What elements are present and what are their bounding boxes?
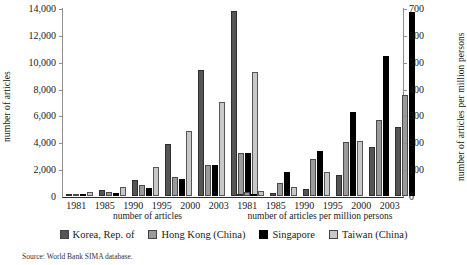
tick-mark (59, 143, 63, 144)
tick-mark (403, 36, 407, 37)
bar (172, 177, 178, 196)
tick-mark (403, 143, 407, 144)
legend-swatch (329, 230, 338, 239)
bar (277, 183, 283, 196)
tick-label: 400 (409, 85, 424, 95)
tick-label: 500 (409, 58, 424, 68)
legend-swatch (60, 230, 69, 239)
tick-label: 600 (409, 31, 424, 41)
bar-group-1995 (333, 8, 366, 196)
tick-mark (403, 9, 407, 10)
tick-mark (59, 36, 63, 37)
y-axis-ticks-right: 7006005004003002001000 (409, 8, 449, 198)
bar (66, 194, 72, 196)
tick-label: 14,000 (29, 4, 57, 14)
tick-label: 0 (51, 192, 56, 202)
bar (324, 172, 330, 196)
tick-label: 2,000 (34, 165, 57, 175)
tick-label: 0 (409, 192, 414, 202)
bar (310, 159, 316, 196)
bar (219, 102, 225, 196)
legend-item: Korea, Rep. of (60, 229, 135, 240)
tick-label: 4,000 (34, 138, 57, 148)
bar (383, 56, 389, 196)
legend-item: Taiwan (China) (329, 229, 407, 240)
bar (357, 141, 363, 196)
legend: Korea, Rep. ofHong Kong (China)Singapore… (0, 229, 467, 240)
tick-label: 300 (409, 111, 424, 121)
bar (343, 142, 349, 196)
tick-mark (59, 116, 63, 117)
bar (212, 165, 218, 196)
tick-mark (59, 9, 63, 10)
bar (87, 192, 93, 196)
legend-swatch (148, 230, 157, 239)
bar (186, 131, 192, 196)
bar (198, 70, 204, 196)
bar (139, 185, 145, 196)
y-axis-ticks-left: 14,00012,00010,0008,0006,0004,0002,0000 (16, 8, 56, 198)
bar (291, 187, 297, 196)
x-axis-title-right: number of articles per million persons (222, 211, 418, 221)
bar (132, 180, 138, 196)
bar (350, 112, 356, 196)
tick-label: 10,000 (29, 58, 57, 68)
tick-mark (403, 116, 407, 117)
bar (284, 172, 290, 196)
legend-swatch (259, 230, 268, 239)
legend-label: Hong Kong (China) (161, 229, 245, 240)
legend-item: Hong Kong (China) (148, 229, 245, 240)
tick-mark (403, 170, 407, 171)
y-axis-title-left: number of articles (2, 14, 12, 200)
legend-item: Singapore (259, 229, 315, 240)
bar (165, 144, 171, 196)
legend-label: Korea, Rep. of (73, 229, 135, 240)
figure: number of articles 14,00012,00010,0008,0… (0, 0, 467, 265)
tick-label: 200 (409, 138, 424, 148)
bar (376, 120, 382, 196)
bar-group-1981 (234, 8, 267, 196)
bar-group-1985 (96, 8, 129, 196)
bar-group-1990 (129, 8, 162, 196)
bar-group-1985 (267, 8, 300, 196)
bar (336, 175, 342, 196)
bar (106, 192, 112, 196)
source-note: Source: World Bank SIMA database. (22, 252, 133, 261)
bar (153, 167, 159, 196)
bar-group-1990 (300, 8, 333, 196)
bar (120, 187, 126, 196)
bar (99, 190, 105, 196)
bar (113, 193, 119, 196)
bar (73, 194, 79, 196)
bar (80, 194, 86, 196)
bar-group-2000 (195, 8, 228, 196)
x-axis-title-left: number of articles (62, 211, 233, 221)
bar-group-1981 (63, 8, 96, 196)
bar (402, 95, 408, 196)
plot-area (62, 8, 404, 198)
bar (317, 151, 323, 196)
bar (146, 188, 152, 196)
bar (395, 127, 401, 196)
legend-label: Taiwan (China) (342, 229, 407, 240)
legend-label: Singapore (272, 229, 315, 240)
bar (303, 189, 309, 196)
bar (244, 192, 250, 196)
tick-mark (403, 90, 407, 91)
y-axis-title-right: number of articles per million persons (456, 4, 466, 210)
panel-number-of-articles (63, 8, 234, 196)
tick-mark (59, 63, 63, 64)
bar (237, 194, 243, 196)
bar-group-1995 (162, 8, 195, 196)
tick-mark (59, 90, 63, 91)
bar (205, 165, 211, 196)
bar (270, 193, 276, 196)
bar (369, 147, 375, 196)
tick-mark (59, 170, 63, 171)
tick-label: 100 (409, 165, 424, 175)
tick-label: 6,000 (34, 111, 57, 121)
tick-label: 12,000 (29, 31, 57, 41)
tick-label: 8,000 (34, 85, 57, 95)
tick-label: 700 (409, 4, 424, 14)
bar (179, 179, 185, 196)
